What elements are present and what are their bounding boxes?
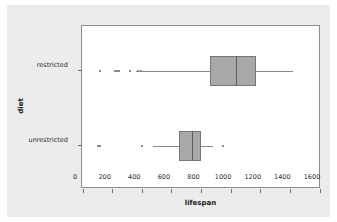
median-unrestricted: [192, 131, 193, 161]
whisker-low-restricted: [136, 71, 210, 72]
x-axis-tick: [260, 189, 261, 193]
x-axis-tick-label: 1200: [244, 173, 261, 181]
outlier-restricted: [99, 70, 101, 72]
x-axis-tick-label: 600: [158, 173, 170, 181]
x-axis-tick-label: 400: [128, 173, 140, 181]
x-axis-tick-label: 200: [98, 173, 110, 181]
x-axis-tick: [171, 189, 172, 193]
x-axis-tick: [290, 189, 291, 193]
whisker-low-unrestricted: [153, 146, 179, 147]
x-axis-tick-label: 1000: [215, 173, 232, 181]
x-axis-title: lifespan: [81, 199, 320, 207]
plot-frame: [81, 25, 320, 188]
outlier-unrestricted: [99, 145, 101, 147]
whisker-high-unrestricted: [201, 146, 213, 147]
plot-area: [82, 26, 319, 187]
x-axis-tick: [201, 189, 202, 193]
outlier-restricted: [140, 70, 142, 72]
x-axis-tick-label: 800: [187, 173, 199, 181]
x-axis-tick: [83, 189, 84, 193]
x-axis-tick: [142, 189, 143, 193]
y-axis-tick-label-unrestricted: unrestricted: [7, 136, 68, 144]
outlier-restricted: [129, 70, 131, 72]
x-axis-tick-label: 0: [73, 173, 77, 181]
figure: diet lifespan 02004006008001000120014001…: [0, 0, 337, 222]
outlier-unrestricted: [222, 145, 224, 147]
figure-panel: diet lifespan 02004006008001000120014001…: [7, 5, 330, 217]
y-axis-tick: [78, 70, 82, 71]
outlier-unrestricted: [141, 145, 143, 147]
outlier-restricted: [137, 70, 139, 72]
box-unrestricted: [179, 131, 201, 161]
y-axis-tick: [78, 145, 82, 146]
y-axis-title: diet: [17, 98, 25, 114]
outlier-restricted: [118, 70, 120, 72]
box-restricted: [210, 56, 256, 86]
median-restricted: [236, 56, 237, 86]
y-axis-tick-label-restricted: restricted: [7, 61, 68, 69]
x-axis-tick: [231, 189, 232, 193]
x-axis-tick-label: 1600: [304, 173, 321, 181]
whisker-high-restricted: [256, 71, 294, 72]
x-axis-tick: [112, 189, 113, 193]
x-axis-tick: [320, 189, 321, 193]
x-axis-tick-label: 1400: [274, 173, 291, 181]
